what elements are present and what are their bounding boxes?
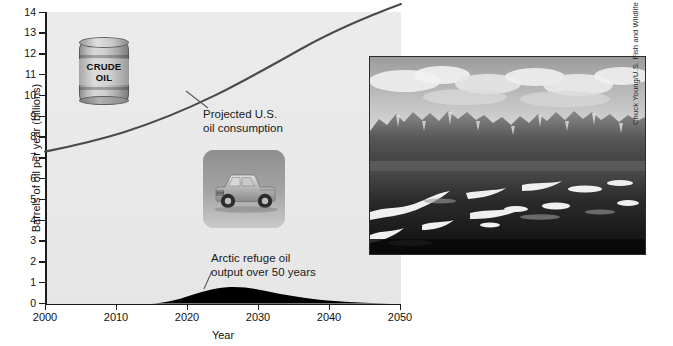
x-tick-2000 (45, 304, 46, 310)
y-tick-label-1: 1 (2, 277, 36, 288)
annotation-arctic-line1: Arctic refuge oil (211, 252, 316, 266)
annotation-consumption-line2: oil consumption (203, 122, 283, 136)
truck-illustration (203, 150, 285, 228)
barrel-rib-top (79, 55, 129, 58)
x-tick-label-2000: 2000 (33, 312, 57, 323)
barrel-label-line1: CRUDE (87, 61, 122, 72)
barrel-top-rim (79, 37, 129, 48)
x-tick-2020 (187, 304, 188, 310)
barrel-label-band: CRUDE OIL (79, 59, 129, 85)
oil-consumption-figure: 0 1 2 3 4 5 6 7 8 9 10 11 12 13 14 2000 … (0, 0, 673, 346)
barrel-bottom-rim (79, 96, 129, 105)
x-tick-label-2040: 2040 (317, 312, 341, 323)
annotation-consumption-line1: Projected U.S. (203, 108, 283, 122)
y-axis-title: Barrels of oil per year (billions) (30, 43, 42, 273)
pickup-truck-photo (203, 150, 285, 228)
photo-credit: Chuck Young/U.S. Fish and Wildlife Servi… (632, 0, 640, 125)
x-tick-label-2020: 2020 (175, 312, 199, 323)
y-tick-label-13: 13 (2, 27, 36, 38)
x-tick-2010 (116, 304, 117, 310)
x-tick-label-2010: 2010 (104, 312, 128, 323)
barrel-rib-bottom (79, 87, 129, 90)
y-tick-label-14: 14 (2, 7, 36, 18)
x-tick-2040 (329, 304, 330, 310)
annotation-arctic-output: Arctic refuge oil output over 50 years (211, 252, 316, 279)
y-tick-label-0: 0 (2, 298, 36, 309)
crude-oil-barrel-icon: CRUDE OIL (75, 35, 133, 107)
x-tick-2050 (400, 304, 401, 310)
barrel-label-line2: OIL (96, 72, 112, 83)
annotation-arctic-line2: output over 50 years (211, 266, 316, 280)
x-tick-label-2030: 2030 (246, 312, 270, 323)
landscape-illustration (370, 57, 645, 254)
annotation-projected-consumption: Projected U.S. oil consumption (203, 108, 283, 135)
x-tick-label-2050: 2050 (388, 312, 412, 323)
arctic-output-area (45, 287, 401, 304)
arctic-landscape-photo (369, 56, 646, 255)
x-axis-title: Year (212, 329, 234, 341)
x-tick-2030 (258, 304, 259, 310)
